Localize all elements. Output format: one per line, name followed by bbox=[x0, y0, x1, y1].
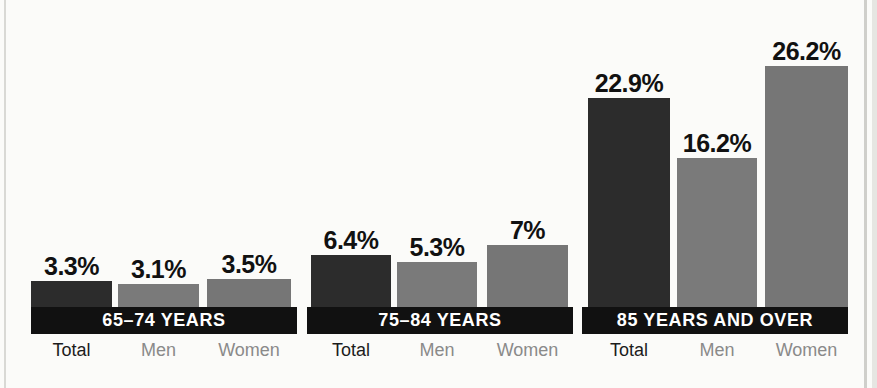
value-label-75-84-men: 5.3% bbox=[397, 233, 477, 262]
tick-label-65-74-women: Women bbox=[207, 340, 291, 361]
tick-label-65-74-men: Men bbox=[118, 340, 199, 361]
value-label-75-84-women: 7% bbox=[487, 216, 568, 245]
group-band-75-84: 75–84 YEARS bbox=[307, 307, 573, 334]
tick-label-85-over-women: Women bbox=[765, 340, 848, 361]
bar-75-84-men bbox=[397, 262, 477, 307]
bar-85-over-total bbox=[588, 98, 670, 307]
bar-85-over-men bbox=[677, 158, 757, 307]
bar-85-over-women bbox=[765, 66, 848, 307]
tick-label-75-84-men: Men bbox=[397, 340, 477, 361]
bar-75-84-women bbox=[487, 245, 568, 307]
tick-label-75-84-total: Total bbox=[311, 340, 391, 361]
plot-area: 3.3% 3.1% 3.5% 65–74 YEARS Total Men Wom… bbox=[0, 0, 877, 388]
bar-65-74-women bbox=[207, 279, 291, 307]
value-label-65-74-men: 3.1% bbox=[118, 255, 199, 284]
tick-label-85-over-total: Total bbox=[588, 340, 670, 361]
value-label-85-over-total: 22.9% bbox=[580, 69, 678, 98]
bar-75-84-total bbox=[311, 255, 391, 307]
value-label-75-84-total: 6.4% bbox=[311, 226, 391, 255]
grouped-bar-chart: 3.3% 3.1% 3.5% 65–74 YEARS Total Men Wom… bbox=[0, 0, 877, 388]
tick-label-65-74-total: Total bbox=[31, 340, 112, 361]
value-label-85-over-men: 16.2% bbox=[669, 129, 765, 158]
bar-65-74-men bbox=[118, 284, 199, 307]
group-band-85-over: 85 YEARS AND OVER bbox=[582, 307, 848, 334]
group-band-label-85-over: 85 YEARS AND OVER bbox=[617, 310, 813, 331]
group-band-label-75-84: 75–84 YEARS bbox=[378, 310, 501, 331]
value-label-65-74-women: 3.5% bbox=[207, 250, 291, 279]
value-label-65-74-total: 3.3% bbox=[31, 252, 112, 281]
value-label-85-over-women: 26.2% bbox=[757, 37, 856, 66]
group-band-label-65-74: 65–74 YEARS bbox=[102, 310, 225, 331]
tick-label-85-over-men: Men bbox=[677, 340, 757, 361]
bar-65-74-total bbox=[31, 281, 112, 307]
tick-label-75-84-women: Women bbox=[487, 340, 568, 361]
group-band-65-74: 65–74 YEARS bbox=[31, 307, 297, 334]
